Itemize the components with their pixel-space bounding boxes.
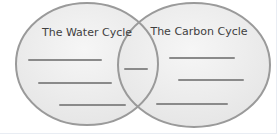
right-circle-title: The Carbon Cycle	[139, 25, 259, 38]
left-circle-title: The Water Cycle	[27, 26, 147, 39]
right-blank-line-3	[156, 103, 228, 105]
left-blank-line-3	[59, 104, 126, 106]
right-blank-line-2	[178, 79, 244, 81]
left-blank-line-1	[28, 59, 102, 61]
venn-diagram-canvas: The Water Cycle The Carbon Cycle	[0, 0, 277, 134]
venn-diagram-graphic	[0, 0, 277, 134]
overlap-blank-line-1	[124, 68, 148, 70]
left-blank-line-2	[38, 82, 112, 84]
right-blank-line-1	[169, 57, 235, 59]
